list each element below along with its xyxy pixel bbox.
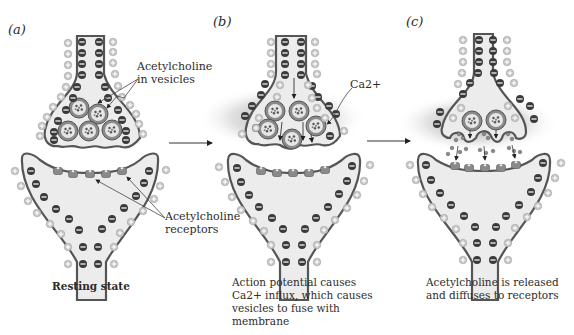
caption-b-line: Ca2+ influx, which causes (232, 289, 373, 302)
vesicles-callout: Acetylcholine in vesicles (137, 60, 212, 86)
vesicles-callout-line1: Acetylcholine (137, 60, 212, 73)
presynaptic-terminal-c (442, 34, 526, 142)
caption-b-line: vesicles to fuse with (232, 302, 373, 315)
caption-c-line: Acetylcholine is released (426, 276, 559, 289)
receptors-callout-line2: receptors (165, 223, 240, 236)
caption-a: Resting state (52, 280, 130, 293)
caption-b-line: membrane (232, 315, 373, 328)
caption-b: Action potential causes Ca2+ influx, whi… (232, 276, 373, 328)
panel-b-diagram (197, 36, 374, 300)
receptors-callout-line1: Acetylcholine (165, 210, 240, 223)
vesicles-callout-line2: in vesicles (137, 73, 212, 86)
caption-c: Acetylcholine is released and diffuses t… (426, 276, 559, 302)
caption-c-line: and diffuses to receptors (426, 289, 559, 302)
caption-a-line: Resting state (52, 280, 130, 293)
caption-b-line: Action potential causes (232, 276, 373, 289)
receptors-callout: Acetylcholine receptors (165, 210, 240, 236)
panel-c-diagram (395, 34, 565, 300)
calcium-callout: Ca2+ (350, 78, 381, 91)
